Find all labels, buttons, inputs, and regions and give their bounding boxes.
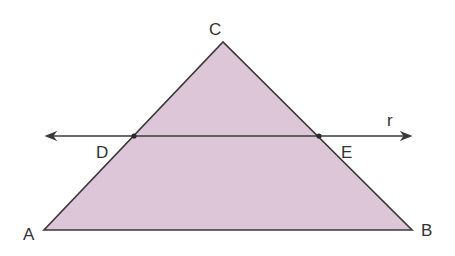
label-e: E <box>341 143 352 162</box>
label-b: B <box>421 221 432 240</box>
label-a: A <box>23 225 35 244</box>
point-e-dot <box>316 133 321 138</box>
point-d-dot <box>131 133 136 138</box>
label-c: C <box>209 20 221 39</box>
label-d: D <box>96 143 108 162</box>
triangle-diagram: C A B D E r <box>0 0 455 256</box>
label-r: r <box>387 111 393 130</box>
